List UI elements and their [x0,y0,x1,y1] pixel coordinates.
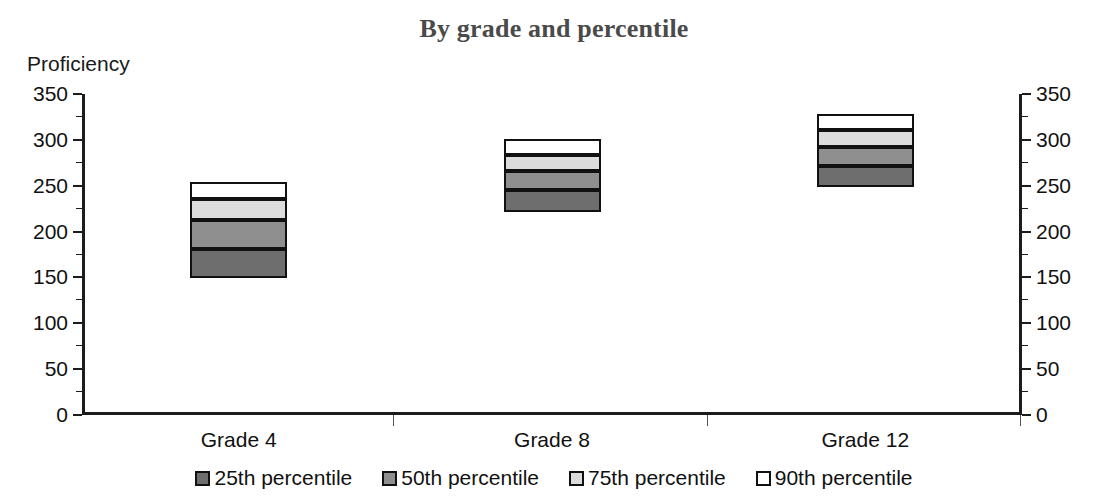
legend-item[interactable]: 75th percentile [569,466,726,490]
bar-segment-75th[interactable] [817,130,914,147]
y-axis-tick-l-100 [73,322,82,324]
y-axis-tick-l-0 [73,414,82,416]
y-axis-tick-r-300 [1022,139,1031,141]
y-axis-label-l-150: 150 [33,266,68,287]
bar-segment-75th[interactable] [190,199,287,220]
y-axis-label-l-100: 100 [33,312,68,333]
y-axis-minor-tick-l [76,162,82,163]
legend-label: 25th percentile [214,466,352,490]
bar-segment-90th[interactable] [190,182,287,199]
y-axis-label-r-150: 150 [1036,266,1071,287]
plot-area: 0050501001001501502002002502503003003503… [82,94,1022,415]
chart-container: By grade and percentile Proficiency 0050… [0,0,1108,500]
y-axis-minor-tick-r [1022,208,1028,209]
legend-label: 75th percentile [588,466,726,490]
y-axis-tick-r-150 [1022,276,1031,278]
x-axis-category-separator [707,415,708,426]
bar-segment-25th[interactable] [504,190,601,212]
bar-segment-25th[interactable] [817,166,914,187]
bar-segment-90th[interactable] [504,139,601,155]
y-axis-minor-tick-r [1022,254,1028,255]
legend-swatch-icon [195,471,210,486]
y-axis-label-r-250: 250 [1036,175,1071,196]
x-axis-category-label: Grade 8 [395,428,708,452]
y-axis-minor-tick-l [76,116,82,117]
y-axis-label-r-50: 50 [1036,358,1059,379]
legend-swatch-icon [382,471,397,486]
y-axis-right-line [1019,94,1022,415]
y-axis-tick-r-100 [1022,322,1031,324]
bar-segment-90th[interactable] [817,114,914,130]
y-axis-tick-l-50 [73,368,82,370]
y-axis-minor-tick-r [1022,391,1028,392]
y-axis-label-r-0: 0 [1036,404,1048,425]
y-axis-minor-tick-l [76,254,82,255]
y-axis-minor-tick-l [76,299,82,300]
y-axis-tick-r-250 [1022,185,1031,187]
y-axis-label-l-0: 0 [56,404,68,425]
y-axis-tick-l-250 [73,185,82,187]
bar-segment-50th[interactable] [817,147,914,165]
bar-segment-50th[interactable] [190,220,287,249]
y-axis-label-r-200: 200 [1036,221,1071,242]
bar-segment-50th[interactable] [504,171,601,190]
x-axis-category-separator [1020,415,1021,426]
y-axis-caption: Proficiency [27,52,130,76]
bar-group-grade-12[interactable] [817,94,914,415]
chart-title: By grade and percentile [0,14,1108,44]
y-axis-tick-l-350 [73,93,82,95]
y-axis-tick-r-0 [1022,414,1031,416]
legend-label: 90th percentile [775,466,913,490]
y-axis-label-l-50: 50 [45,358,68,379]
legend-item[interactable]: 90th percentile [756,466,913,490]
chart-legend: 25th percentile50th percentile75th perce… [0,466,1108,490]
y-axis-minor-tick-l [76,208,82,209]
legend-item[interactable]: 50th percentile [382,466,539,490]
bar-group-grade-4[interactable] [190,94,287,415]
y-axis-label-r-350: 350 [1036,83,1071,104]
y-axis-label-l-250: 250 [33,175,68,196]
bar-group-grade-8[interactable] [504,94,601,415]
legend-label: 50th percentile [401,466,539,490]
y-axis-tick-r-350 [1022,93,1031,95]
legend-item[interactable]: 25th percentile [195,466,352,490]
y-axis-label-l-200: 200 [33,221,68,242]
y-axis-label-r-100: 100 [1036,312,1071,333]
y-axis-minor-tick-r [1022,162,1028,163]
y-axis-tick-r-200 [1022,231,1031,233]
bar-segment-25th[interactable] [190,249,287,278]
y-axis-minor-tick-l [76,391,82,392]
legend-swatch-icon [756,471,771,486]
y-axis-minor-tick-r [1022,116,1028,117]
y-axis-minor-tick-r [1022,299,1028,300]
x-axis-category-label: Grade 4 [82,428,395,452]
legend-swatch-icon [569,471,584,486]
y-axis-minor-tick-l [76,345,82,346]
y-axis-tick-l-200 [73,231,82,233]
y-axis-label-l-300: 300 [33,129,68,150]
x-axis-category-label: Grade 12 [709,428,1022,452]
y-axis-left-line [82,94,85,415]
bar-segment-75th[interactable] [504,155,601,172]
y-axis-label-r-300: 300 [1036,129,1071,150]
y-axis-tick-r-50 [1022,368,1031,370]
y-axis-tick-l-300 [73,139,82,141]
y-axis-minor-tick-r [1022,345,1028,346]
y-axis-tick-l-150 [73,276,82,278]
y-axis-label-l-350: 350 [33,83,68,104]
x-axis-category-separator [393,415,394,426]
